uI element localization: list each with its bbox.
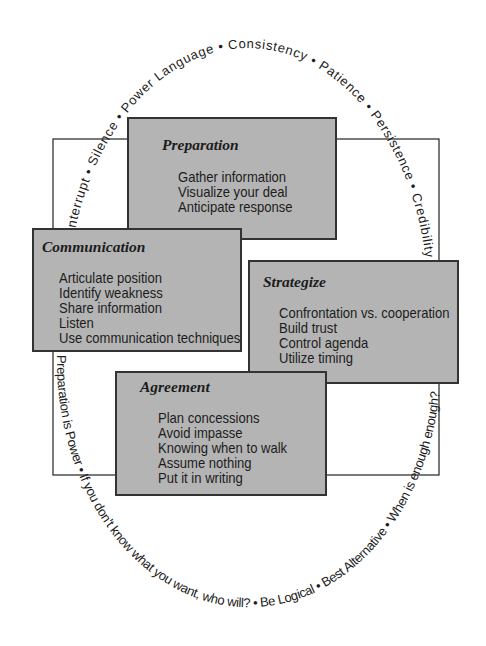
preparation-title: Preparation: [162, 136, 239, 154]
communication-box: Communication Articulate position Identi…: [32, 228, 242, 352]
list-item: Assume nothing: [158, 455, 287, 470]
list-item: Use communication techniques: [59, 330, 240, 345]
ring-phrase-preparation-is-power: Preparation is Power: [54, 355, 87, 468]
ring-phrase-silence: Silence: [84, 118, 121, 168]
communication-title: Communication: [42, 238, 145, 256]
list-item: Build trust: [279, 320, 449, 335]
strategize-title: Strategize: [263, 273, 326, 291]
ring-phrase-be-logical: Be Logical: [259, 581, 317, 610]
ring-bullet: •: [80, 166, 96, 177]
list-item: Utilize timing: [279, 350, 449, 365]
list-item: Visualize your deal: [178, 184, 293, 199]
ring-bullet: •: [308, 53, 320, 69]
list-item: Articulate position: [59, 270, 240, 285]
list-item: Avoid impasse: [158, 425, 287, 440]
list-item: Control agenda: [279, 335, 449, 350]
ring-bullet: •: [253, 595, 259, 610]
list-item: Confrontation vs. cooperation: [279, 305, 449, 320]
communication-items: Articulate position Identify weakness Sh…: [59, 270, 267, 345]
preparation-box: Preparation Gather information Visualize…: [127, 117, 337, 240]
ring-phrase-persistence: Persistence: [368, 108, 418, 183]
ring-phrase-consistency: Consistency: [227, 36, 310, 64]
list-item: Gather information: [178, 169, 293, 184]
list-item: Plan concessions: [158, 410, 287, 425]
list-item: Listen: [59, 315, 240, 330]
preparation-items: Gather information Visualize your deal A…: [178, 169, 310, 214]
list-item: Anticipate response: [178, 199, 293, 214]
ring-phrase-when-is-enough: When is enough enough?: [384, 391, 443, 525]
list-item: Share information: [59, 300, 240, 315]
ring-bullet: •: [112, 110, 127, 123]
list-item: Identify weakness: [59, 285, 240, 300]
ring-bullet: •: [217, 38, 225, 54]
agreement-items: Plan concessions Avoid impasse Knowing w…: [158, 410, 306, 485]
list-item: Put it in writing: [158, 470, 287, 485]
list-item: Knowing when to walk: [158, 440, 287, 455]
ring-phrase-best-alternative: Best Alternative: [319, 524, 390, 590]
agreement-title: Agreement: [140, 378, 210, 396]
ring-phrase-interrupt: Interrupt: [63, 175, 93, 233]
ring-bullet: •: [406, 182, 422, 192]
ring-phrase-patience: Patience: [316, 58, 370, 106]
ring-bullet: •: [362, 100, 377, 114]
ring-phrase-credibility: Credibility: [409, 191, 438, 259]
strategize-items: Confrontation vs. cooperation Build trus…: [279, 305, 475, 365]
ring-phrase-power-language: Power Language: [118, 41, 216, 116]
strategize-box: Strategize Confrontation vs. cooperation…: [248, 260, 459, 384]
agreement-box: Agreement Plan concessions Avoid impasse…: [115, 371, 327, 496]
